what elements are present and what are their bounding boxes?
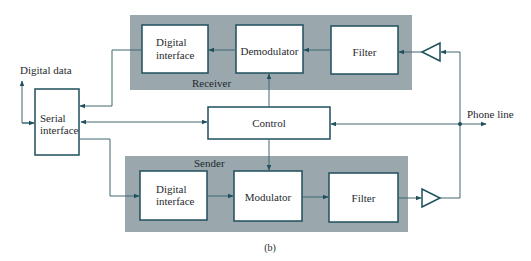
demodulator-block: Demodulator <box>236 25 303 73</box>
rx-amplifier-icon <box>422 43 440 61</box>
serial-interface-line1: Serial <box>40 112 66 124</box>
serial-interface-block: Serial interface <box>35 89 79 155</box>
modulator-label: Modulator <box>245 191 292 203</box>
tx-digital-interface-line1: Digital <box>156 183 187 195</box>
tx-filter-block: Filter <box>329 173 398 222</box>
rx-digital-interface-line2: interface <box>156 49 195 61</box>
modem-block-diagram: Receiver Sender Digital interface Demodu… <box>0 0 531 261</box>
digital-data-arrow <box>22 81 35 123</box>
sender-label: Sender <box>194 157 225 169</box>
modulator-block: Modulator <box>234 171 302 221</box>
rx-filter-label: Filter <box>353 46 377 58</box>
txamp-to-phone-line <box>440 124 460 198</box>
serial-interface-line2: interface <box>40 124 79 136</box>
tx-filter-label: Filter <box>352 192 376 204</box>
receiver-label: Receiver <box>192 77 231 89</box>
rx-filter-block: Filter <box>331 26 398 74</box>
tx-digital-interface-line2: interface <box>156 195 195 207</box>
tx-amplifier-icon <box>422 189 440 207</box>
rx-digital-interface-block: Digital interface <box>142 25 208 73</box>
phone-to-rxamp-arrow <box>441 52 460 124</box>
digital-data-label: Digital data <box>20 64 72 76</box>
demodulator-label: Demodulator <box>240 45 298 57</box>
control-block: Control <box>208 107 330 139</box>
phone-line-junction <box>458 122 462 126</box>
figure-caption: (b) <box>264 242 276 254</box>
phone-line-label: Phone line <box>467 108 514 120</box>
tx-digital-interface-block: Digital interface <box>140 171 207 220</box>
control-label: Control <box>252 117 286 129</box>
rx-digital-interface-line1: Digital <box>156 36 187 48</box>
